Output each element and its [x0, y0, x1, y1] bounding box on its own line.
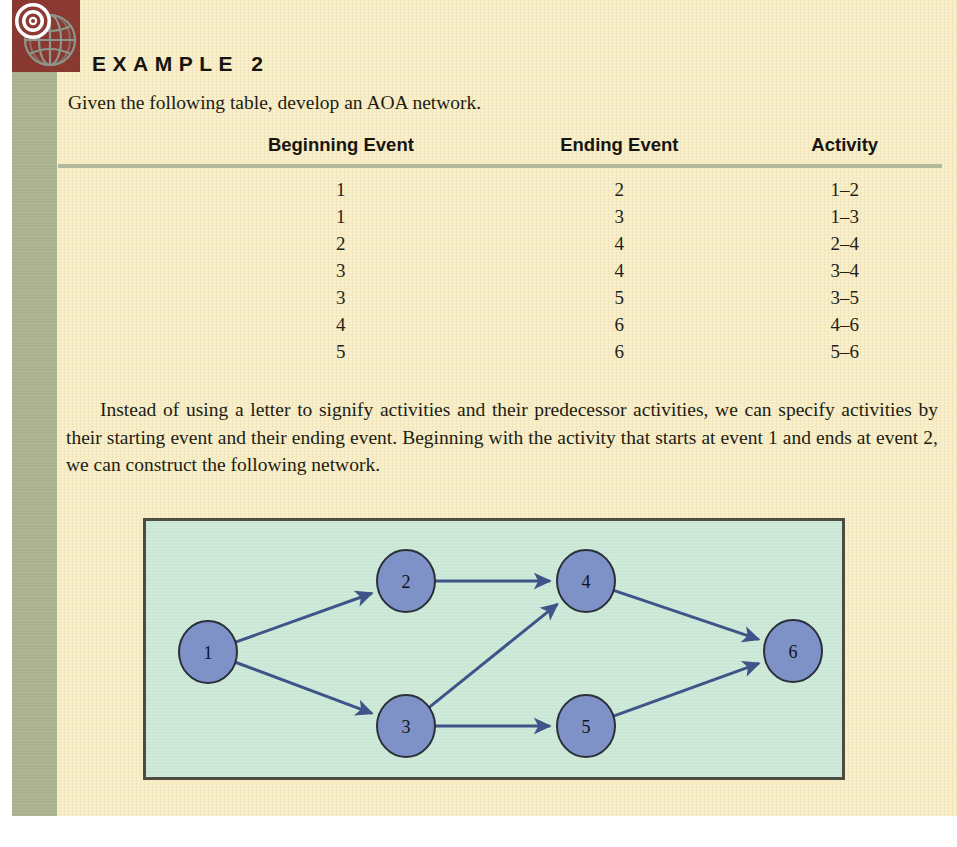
table-header-ending-event: Ending Event: [491, 134, 747, 166]
table-cell-ending-event: 6: [491, 339, 747, 366]
diagram-node-1: 1: [179, 621, 237, 683]
table-cell-spacer: [58, 339, 191, 366]
diagram-node-5: 5: [557, 695, 615, 757]
table-cell-spacer: [58, 285, 191, 312]
table-cell-beginning-event: 5: [191, 339, 492, 366]
table-row: 3 4 3–4: [58, 258, 942, 285]
table-cell-spacer: [58, 166, 191, 204]
table-row: 1 3 1–3: [58, 204, 942, 231]
table-row: 2 4 2–4: [58, 231, 942, 258]
body-paragraph: Instead of using a letter to signify act…: [66, 396, 938, 479]
table-header-activity: Activity: [748, 134, 943, 166]
left-gutter: [0, 0, 12, 816]
table-row: 4 6 4–6: [58, 312, 942, 339]
diagram-edge-4-6: [614, 590, 759, 639]
table-row: 3 5 3–5: [58, 285, 942, 312]
table-cell-ending-event: 6: [491, 312, 747, 339]
table-cell-ending-event: 3: [491, 204, 747, 231]
table-cell-beginning-event: 3: [191, 258, 492, 285]
table-row: 5 6 5–6: [58, 339, 942, 366]
table-cell-activity: 3–5: [748, 285, 943, 312]
table-cell-activity: 5–6: [748, 339, 943, 366]
page-title: EXAMPLE 2: [92, 52, 270, 76]
table-cell-beginning-event: 1: [191, 204, 492, 231]
table-row: 1 2 1–2: [58, 166, 942, 204]
table-cell-spacer: [58, 258, 191, 285]
globe-target-icon: [12, 0, 80, 72]
diagram-edge-5-6: [613, 663, 758, 716]
table-cell-beginning-event: 4: [191, 312, 492, 339]
events-table: Beginning Event Ending Event Activity 1 …: [58, 134, 942, 366]
sage-side-band: [12, 0, 57, 816]
table-cell-activity: 4–6: [748, 312, 943, 339]
diagram-edge-1-3: [235, 662, 372, 713]
table-cell-spacer: [58, 231, 191, 258]
aoa-network-diagram: 123456: [143, 518, 845, 780]
diagram-node-label-4: 4: [582, 572, 591, 592]
diagram-node-3: 3: [377, 695, 435, 757]
table-cell-ending-event: 4: [491, 258, 747, 285]
diagram-edges: [235, 581, 759, 726]
table-cell-activity: 3–4: [748, 258, 943, 285]
table-cell-ending-event: 2: [491, 166, 747, 204]
diagram-node-label-6: 6: [789, 642, 798, 662]
table-header-spacer: [58, 134, 191, 166]
diagram-node-2: 2: [377, 550, 435, 612]
diagram-node-label-1: 1: [204, 643, 213, 663]
table-header-row: Beginning Event Ending Event Activity: [58, 134, 942, 166]
table-header-beginning-event: Beginning Event: [191, 134, 492, 166]
table-cell-beginning-event: 1: [191, 166, 492, 204]
table-cell-ending-event: 5: [491, 285, 747, 312]
table-cell-spacer: [58, 312, 191, 339]
diagram-edge-1-2: [235, 593, 371, 642]
table-cell-activity: 1–2: [748, 166, 943, 204]
table-cell-beginning-event: 3: [191, 285, 492, 312]
table-cell-spacer: [58, 204, 191, 231]
diagram-node-label-3: 3: [402, 717, 411, 737]
diagram-node-label-5: 5: [582, 717, 591, 737]
table-cell-beginning-event: 2: [191, 231, 492, 258]
diagram-node-6: 6: [764, 620, 822, 682]
diagram-node-4: 4: [557, 550, 615, 612]
diagram-node-label-2: 2: [402, 572, 411, 592]
table-cell-activity: 1–3: [748, 204, 943, 231]
table-cell-ending-event: 4: [491, 231, 747, 258]
diagram-edge-3-4: [429, 604, 557, 707]
table-cell-activity: 2–4: [748, 231, 943, 258]
textbook-page: EXAMPLE 2 Given the following table, dev…: [0, 0, 957, 847]
intro-text: Given the following table, develop an AO…: [68, 92, 768, 114]
